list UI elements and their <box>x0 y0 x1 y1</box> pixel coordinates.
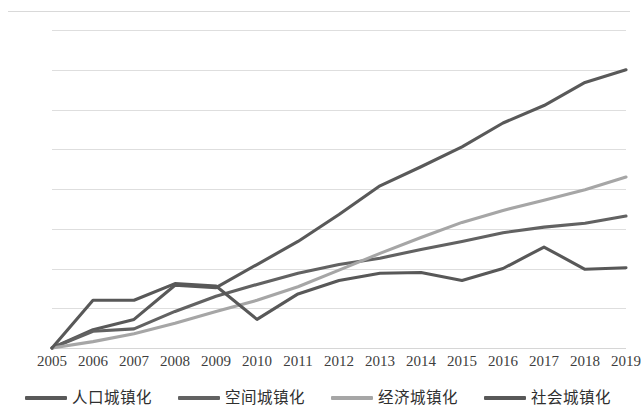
plot-area <box>52 30 626 348</box>
x-axis-tick-label: 2017 <box>529 352 559 370</box>
series-line <box>52 177 626 348</box>
x-axis-tick-label: 2007 <box>119 352 149 370</box>
legend-swatch-population <box>25 396 67 400</box>
y-axis-label-clip: 00.050.10.150.20.250.30.350.4 <box>0 0 52 410</box>
x-axis-tick-label: 2006 <box>78 352 108 370</box>
x-axis-tick-label: 2008 <box>160 352 190 370</box>
x-axis-tick-label: 2005 <box>37 352 67 370</box>
legend-item[interactable]: 人口城镇化 <box>25 390 152 407</box>
x-axis-tick-label: 2009 <box>201 352 231 370</box>
legend-swatch-social <box>484 396 526 400</box>
legend-swatch-economic <box>331 396 373 400</box>
legend-label: 人口城镇化 <box>72 390 152 407</box>
top-border-rule <box>8 11 630 12</box>
x-axis-tick-label: 2018 <box>570 352 600 370</box>
x-axis-tick-label: 2011 <box>283 352 312 370</box>
x-axis-tick-label: 2012 <box>324 352 354 370</box>
x-axis-tick-label: 2013 <box>365 352 395 370</box>
legend-label: 社会城镇化 <box>531 390 611 407</box>
x-axis-tick-label: 2019 <box>611 352 641 370</box>
legend-label: 空间城镇化 <box>225 390 305 407</box>
x-axis-tick-label: 2014 <box>406 352 436 370</box>
legend-label: 经济城镇化 <box>378 390 458 407</box>
x-axis-labels: 2005200620072008200920102011201220132014… <box>0 352 636 374</box>
x-axis-tick-label: 2010 <box>242 352 272 370</box>
series-line <box>52 70 626 348</box>
legend-item[interactable]: 经济城镇化 <box>331 390 458 407</box>
gridline <box>52 348 626 349</box>
series-lines <box>52 30 626 348</box>
legend-item[interactable]: 空间城镇化 <box>178 390 305 407</box>
legend-item[interactable]: 社会城镇化 <box>484 390 611 407</box>
chart-legend: 人口城镇化空间城镇化经济城镇化社会城镇化 <box>0 386 636 410</box>
x-axis-tick-label: 2015 <box>447 352 477 370</box>
x-axis-tick-label: 2016 <box>488 352 518 370</box>
legend-swatch-spatial <box>178 396 220 400</box>
